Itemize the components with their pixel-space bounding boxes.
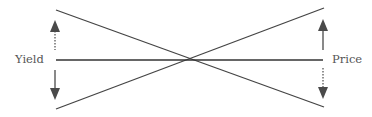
right-down-arrow-icon [318, 68, 328, 99]
diagram-canvas [0, 0, 372, 117]
left-down-arrow-icon [50, 70, 60, 100]
ascending-line [56, 8, 324, 109]
left-up-arrow-icon [50, 20, 60, 50]
yield-label: Yield [15, 54, 44, 66]
price-label: Price [332, 54, 362, 66]
right-up-arrow-icon [318, 19, 328, 50]
yield-price-diagram: Yield Price [0, 0, 372, 117]
